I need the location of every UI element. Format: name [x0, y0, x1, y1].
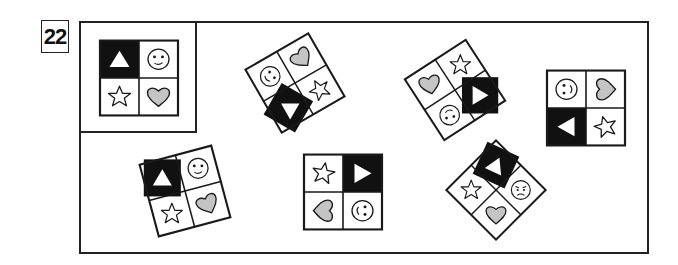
black-triangle-icon [100, 41, 139, 78]
option-tile-f[interactable] [446, 140, 546, 240]
option-tile-a[interactable] [250, 38, 340, 128]
reference-tile [99, 40, 179, 116]
option-tile-b[interactable] [410, 45, 500, 135]
black-triangle-icon [144, 159, 181, 196]
black-triangle-icon [547, 108, 586, 145]
smiley-face-icon [188, 158, 208, 178]
question-number: 22 [41, 20, 69, 53]
smiley-face-icon [556, 79, 577, 99]
option-tile-e[interactable] [303, 154, 383, 230]
black-triangle-icon [343, 155, 382, 192]
option-tile-c[interactable] [546, 70, 626, 146]
smiley-face-icon [148, 49, 169, 69]
frowning-face-icon [511, 181, 530, 200]
smiley-face-icon [352, 201, 373, 221]
option-tile-d[interactable] [140, 146, 230, 236]
